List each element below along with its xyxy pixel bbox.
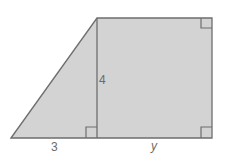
height-label: 4 [99, 74, 106, 86]
trapezoid-shape [11, 18, 212, 138]
rectangle-base-label: y [151, 140, 157, 152]
trapezoid-figure [0, 0, 228, 160]
triangle-base-label: 3 [51, 141, 58, 153]
